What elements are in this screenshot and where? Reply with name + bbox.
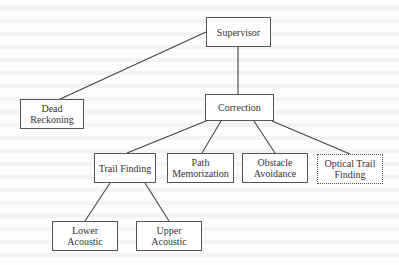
edge-trail-finding-lower-acoustic bbox=[85, 183, 110, 221]
edge-correction-obstacle-avoidance bbox=[254, 121, 275, 153]
node-upper-acoustic: Upper Acoustic bbox=[136, 221, 202, 251]
node-correction: Correction bbox=[205, 94, 274, 121]
node-label: Dead Reckoning bbox=[30, 103, 73, 125]
edge-correction-trail-finding bbox=[127, 121, 206, 153]
node-obstacle-avoidance: Obstacle Avoidance bbox=[242, 153, 308, 183]
node-label: Trail Finding bbox=[99, 163, 152, 174]
edge-supervisor-dead-reckoning bbox=[58, 32, 206, 100]
edge-correction-optical-trail-finding bbox=[272, 121, 350, 154]
node-label: Correction bbox=[218, 102, 261, 113]
node-label: Optical Trail Finding bbox=[325, 158, 376, 180]
edge-correction-path-memorization bbox=[202, 121, 221, 153]
node-dead-reckoning: Dead Reckoning bbox=[20, 99, 84, 129]
diagram-canvas: Supervisor Dead Reckoning Correction Tra… bbox=[0, 0, 399, 265]
node-trail-finding: Trail Finding bbox=[94, 153, 156, 183]
edge-trail-finding-upper-acoustic bbox=[145, 183, 169, 221]
node-optical-trail-finding: Optical Trail Finding bbox=[317, 154, 383, 184]
node-lower-acoustic: Lower Acoustic bbox=[52, 221, 118, 251]
node-label: Path Memorization bbox=[172, 157, 229, 179]
node-label: Upper Acoustic bbox=[151, 225, 187, 247]
node-label: Lower Acoustic bbox=[67, 225, 103, 247]
node-label: Obstacle Avoidance bbox=[254, 157, 297, 179]
node-label: Supervisor bbox=[217, 27, 260, 38]
node-supervisor: Supervisor bbox=[206, 17, 271, 47]
node-path-memorization: Path Memorization bbox=[167, 153, 234, 183]
